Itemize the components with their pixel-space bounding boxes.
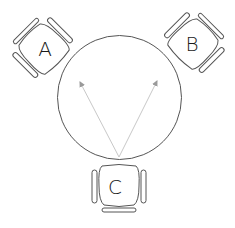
chair-b-label: B bbox=[185, 32, 198, 56]
seating-diagram: A B C bbox=[0, 0, 235, 228]
chair-c-label: C bbox=[108, 175, 122, 199]
round-table bbox=[58, 36, 182, 160]
arrow-c-to-a bbox=[80, 82, 119, 157]
chair-a-label: A bbox=[38, 37, 52, 61]
arrow-c-to-b bbox=[119, 81, 157, 157]
